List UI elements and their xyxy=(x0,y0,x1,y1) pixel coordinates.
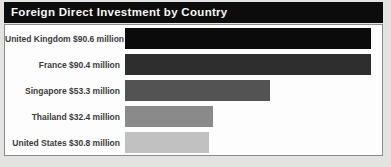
bar xyxy=(125,28,371,49)
bar xyxy=(125,106,213,127)
bar-track xyxy=(125,80,382,101)
bar-row: Singapore $53.3 million xyxy=(5,80,382,101)
bar-track xyxy=(125,28,382,49)
chart-widget: Foreign Direct Investment by Country Uni… xyxy=(0,0,391,167)
bar-rows: United Kingdom $90.6 millionFrance $90.4… xyxy=(5,28,382,153)
bar xyxy=(125,80,270,101)
bar-label: Thailand $32.4 million xyxy=(5,112,125,122)
bar-track xyxy=(125,54,382,75)
bar-label: Singapore $53.3 million xyxy=(5,86,125,96)
bar-row: Thailand $32.4 million xyxy=(5,106,382,127)
bar-row: United States $30.8 million xyxy=(5,132,382,153)
bar-label: France $90.4 million xyxy=(5,60,125,70)
bar-row: France $90.4 million xyxy=(5,54,382,75)
bar-track xyxy=(125,106,382,127)
bar xyxy=(125,132,209,153)
bar xyxy=(125,54,371,75)
bar-label: United States $30.8 million xyxy=(5,138,125,148)
bar-row: United Kingdom $90.6 million xyxy=(5,28,382,49)
chart-plot-area: United Kingdom $90.6 millionFrance $90.4… xyxy=(4,24,383,156)
bar-label: United Kingdom $90.6 million xyxy=(5,34,125,44)
bar-track xyxy=(125,132,382,153)
chart-title: Foreign Direct Investment by Country xyxy=(4,2,383,23)
